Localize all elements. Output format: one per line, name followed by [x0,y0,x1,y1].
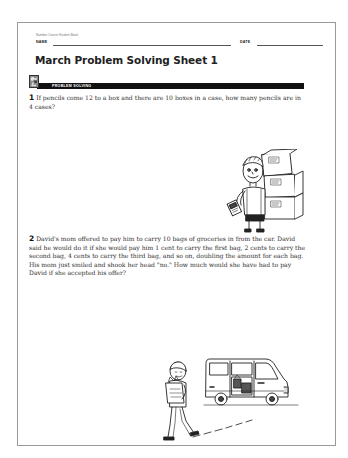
problem-text: David's mom offered to pay him to carry … [29,235,305,276]
name-date-row: NAME DATE [36,40,323,48]
problem-text: If pencils come 12 to a box and there ar… [29,94,301,110]
section-header-bar: PROBLEM SOLVING [37,83,304,89]
problem-number: 1 [29,93,34,102]
worksheet-page: Number Corner Student Book NAME DATE Mar… [17,22,336,446]
source-label: Number Corner Student Book [36,33,78,37]
name-field[interactable] [53,45,231,46]
date-label: DATE [240,40,250,44]
problem-number: 2 [29,234,34,243]
name-label: NAME [36,40,47,44]
section-label: PROBLEM SOLVING [52,84,91,88]
date-field[interactable] [257,45,323,46]
problem-solving-icon [29,75,39,88]
boy-carrying-groceries-from-van-illustration [148,341,308,451]
boy-carrying-pencil-boxes-illustration [223,149,313,233]
problem-2: 2David's mom offered to pay him to carry… [29,235,305,278]
problem-1: 1If pencils come 12 to a box and there a… [29,94,305,111]
page-title: March Problem Solving Sheet 1 [35,54,218,66]
